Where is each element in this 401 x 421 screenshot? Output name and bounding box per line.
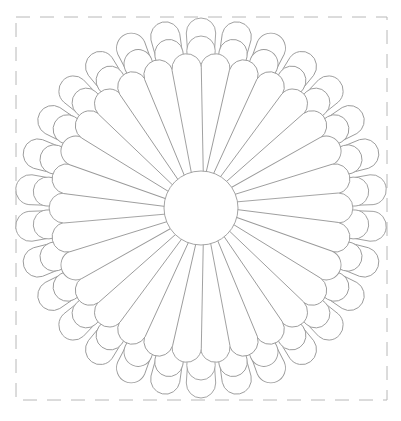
flower-center	[164, 171, 238, 245]
flower-drawing	[0, 0, 401, 421]
